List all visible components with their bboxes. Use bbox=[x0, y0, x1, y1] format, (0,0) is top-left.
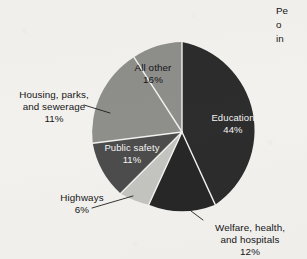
pie-label-welfare-value: 12% bbox=[196, 246, 304, 258]
figure-caption-line-1: Pe bbox=[276, 4, 307, 18]
figure-caption: Pe o in bbox=[276, 4, 307, 46]
pie-label-housing-value: 11% bbox=[2, 113, 106, 125]
pie-label-education-name: Education bbox=[196, 112, 270, 124]
pie-label-public-safety: Public safety 11% bbox=[92, 142, 172, 165]
figure-caption-line-3: in bbox=[276, 32, 307, 46]
pie-chart-figure: Education 44% All other 16% Public safet… bbox=[0, 0, 307, 259]
pie-label-all-other-value: 16% bbox=[116, 74, 190, 86]
pie-label-all-other-name: All other bbox=[116, 62, 190, 74]
figure-caption-line-2: o bbox=[276, 18, 307, 32]
pie-label-highways: Highways 6% bbox=[50, 192, 114, 216]
leader-line-welfare bbox=[191, 211, 203, 220]
pie-label-housing-line1: Housing, parks, bbox=[2, 89, 106, 101]
pie-label-education: Education 44% bbox=[196, 112, 270, 135]
pie-label-housing-parks-sewerage: Housing, parks, and sewerage 11% bbox=[2, 89, 106, 125]
pie-label-highways-name: Highways bbox=[50, 192, 114, 204]
pie-label-public-safety-value: 11% bbox=[92, 154, 172, 166]
pie-label-education-value: 44% bbox=[196, 124, 270, 136]
pie-label-welfare-health-hospitals: Welfare, health, and hospitals 12% bbox=[196, 222, 304, 258]
pie-label-all-other: All other 16% bbox=[116, 62, 190, 86]
pie-label-highways-value: 6% bbox=[50, 204, 114, 216]
pie-label-public-safety-name: Public safety bbox=[92, 142, 172, 154]
pie-label-welfare-line1: Welfare, health, bbox=[196, 222, 304, 234]
caption-clip: Pe o in bbox=[276, 4, 307, 46]
pie-label-welfare-line2: and hospitals bbox=[196, 234, 304, 246]
pie-label-housing-line2: and sewerage bbox=[2, 101, 106, 113]
